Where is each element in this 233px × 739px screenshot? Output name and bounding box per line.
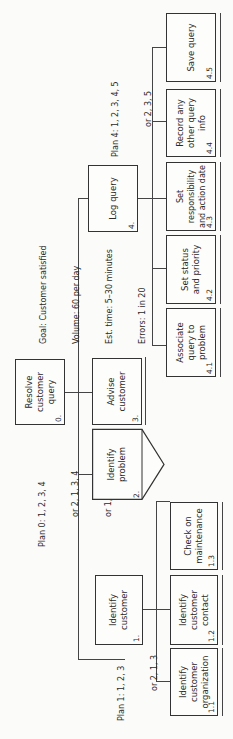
task-number: 4.2 [205, 289, 214, 301]
task-label: Set status and priority [180, 236, 202, 303]
task-number: 4.4 [205, 142, 214, 154]
task-number: 1.3 [207, 555, 216, 567]
goal-block: Goal: Customer satisfied Volume: 60 per … [16, 246, 170, 345]
connector [138, 198, 152, 199]
box-underline [222, 575, 223, 645]
task-box-1: Identify customer 1. [95, 575, 143, 645]
plan-line: or 2, 1, 3, 4 [70, 471, 81, 547]
task-box-4: Log query 4. [88, 165, 138, 232]
connector [152, 345, 166, 346]
connector [143, 609, 156, 610]
plan-1: Plan 1: 1, 2, 3 or 2, 1, 3 [94, 655, 182, 721]
plan-line: or 2, 1, 3 [149, 655, 160, 721]
task-number: 1.2 [207, 630, 216, 642]
plan-4: Plan 4: 1, 2, 3, 4, 5 or 2, 3, 5 [88, 81, 176, 157]
task-label: Identify customer contact [178, 576, 211, 644]
connector [156, 609, 170, 610]
est-time-text: Est. time: 5–30 minutes [104, 246, 115, 345]
task-box-3: Advise customer 3. [92, 358, 142, 425]
box-underline [220, 235, 221, 304]
task-number: 3. [131, 415, 140, 422]
box-underline [220, 89, 221, 157]
task-label: Resolve customer query [24, 360, 57, 424]
task-box-4-5: Save query 4.5 [166, 13, 216, 82]
connector [78, 392, 92, 393]
task-label: Identify problem [106, 429, 128, 500]
connector [156, 501, 170, 502]
task-box-1-3: Check on maintenance 1.3 [170, 502, 218, 570]
task-number: 4.5 [205, 67, 214, 79]
task-label: Advise customer [106, 359, 128, 424]
plan-line: or 2, 3, 5 [143, 81, 154, 157]
task-number: 1. [132, 635, 141, 642]
task-box-4-3: Set responsibility and action date 4.3 [166, 162, 216, 231]
task-number: 4.1 [205, 362, 214, 374]
task-box-1-2: Identify customer contact 1.2 [170, 575, 218, 645]
box-underline [220, 13, 221, 82]
task-label: Record any other query info [175, 90, 208, 156]
task-box-2: Identify problem 2. [92, 429, 142, 500]
task-number: 1.1 [207, 701, 216, 713]
task-number: 0. [54, 415, 63, 422]
task-box-4-1: Associate query to problem 4.1 [166, 308, 216, 377]
task-number: 4.3 [205, 216, 214, 228]
task-number: 4. [127, 222, 136, 229]
task-number: 2. [132, 491, 141, 498]
task-label: Log query [108, 173, 119, 223]
task-label: Check on maintenance [183, 503, 205, 569]
box-underline [222, 502, 223, 570]
errors-text: Errors: 1 in 20 [137, 246, 148, 345]
plan-line: Plan 1: 1, 2, 3 [116, 655, 127, 721]
box-underline [145, 357, 146, 425]
plan-line: Plan 0: 1, 2, 3, 4 [37, 471, 48, 547]
task-box-1-1: Identify customer organization 1.1 [170, 648, 218, 716]
goal-text: Goal: Customer satisfied [38, 246, 49, 345]
task-label: Set responsibility and action date [175, 163, 208, 230]
task-label: Save query [186, 19, 197, 75]
task-box-4-4: Record any other query info 4.4 [166, 89, 216, 157]
plan-line: Plan 4: 1, 2, 3, 4, 5 [110, 81, 121, 157]
connector [78, 198, 88, 199]
hierarchical-task-diagram: Resolve customer query 0. Goal: Customer… [0, 0, 233, 739]
box-underline [220, 162, 221, 231]
task-label: Associate query to problem [175, 309, 208, 376]
task-label: Identify customer organization [178, 649, 211, 715]
box-underline [222, 648, 223, 716]
task-label: Identify customer [108, 576, 130, 644]
box-underline [220, 308, 221, 377]
volume-text: Volume: 60 per day [71, 246, 82, 345]
connector [152, 47, 166, 48]
connector [65, 392, 78, 393]
task-box-0: Resolve customer query 0. [15, 359, 65, 425]
task-box-4-2: Set status and priority 4.2 [166, 235, 216, 304]
connector [152, 198, 166, 199]
